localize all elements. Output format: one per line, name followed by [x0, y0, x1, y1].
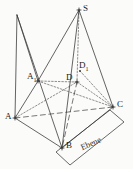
edge-S-A1: [38, 10, 79, 81]
geometry-figure: SA1D1DACB Ebene: [0, 0, 133, 169]
vertex-label-S: S: [83, 4, 88, 13]
vertex-label-D1-subscript: 1: [86, 66, 89, 72]
edge-A1-C: [38, 81, 113, 107]
edge-S-C: [79, 10, 113, 107]
edge-A-C: [15, 107, 113, 118]
marker-A: [13, 116, 18, 121]
marker-S: [77, 8, 82, 13]
vertex-label-D1: D1: [79, 61, 89, 72]
vertex-label-A: A: [5, 112, 12, 121]
edge-T-A: [15, 15, 17, 118]
vertex-label-B: B: [66, 141, 72, 150]
vertex-label-A1-subscript: 1: [34, 77, 37, 83]
vertex-label-D: D: [66, 73, 73, 82]
edge-A1-A: [15, 81, 38, 118]
vertex-label-A1: A1: [27, 72, 37, 83]
vertex-label-C: C: [117, 100, 123, 109]
edge-A-B: [15, 118, 62, 148]
marker-D: [75, 80, 80, 85]
edge-D-C: [77, 82, 113, 107]
